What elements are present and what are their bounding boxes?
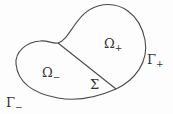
label-omega-minus: Ω− — [42, 66, 60, 82]
label-gamma-minus: Γ− — [6, 96, 23, 112]
label-gamma-plus: Γ+ — [147, 53, 164, 69]
label-omega-plus: Ω+ — [104, 37, 122, 53]
outer-boundary — [16, 5, 146, 100]
label-sigma: Σ — [90, 78, 99, 91]
domain-diagram: Ω+ Γ+ Ω− Σ Γ− — [0, 0, 173, 114]
